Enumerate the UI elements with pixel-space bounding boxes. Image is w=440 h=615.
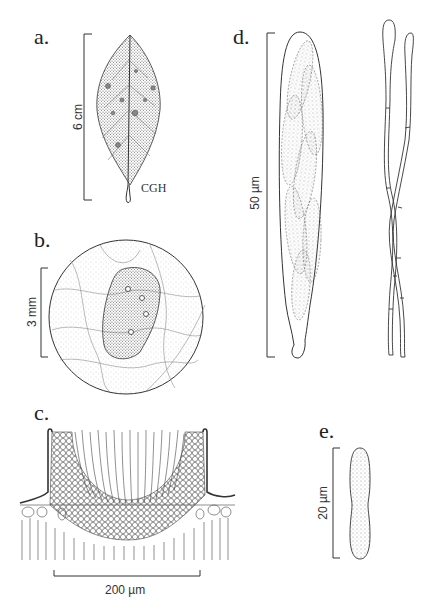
leaf-drawing — [84, 34, 160, 203]
illustration-canvas — [0, 0, 440, 615]
lesion-magnified-drawing — [41, 240, 205, 394]
scale-label-6cm: 6 cm — [71, 97, 85, 137]
panel-label-e: e. — [319, 418, 334, 444]
panel-label-c: c. — [34, 400, 49, 426]
artist-signature: CGH — [141, 181, 166, 196]
ascus-drawing — [267, 20, 413, 358]
scale-label-200um: 200 µm — [105, 583, 145, 597]
ascospore-drawing — [333, 448, 370, 559]
scale-label-50um: 50 µm — [248, 168, 262, 218]
panel-label-d: d. — [233, 24, 250, 50]
panel-label-a: a. — [34, 24, 49, 50]
scale-label-3mm: 3 mm — [25, 292, 39, 332]
scale-label-20um: 20 µm — [316, 478, 330, 528]
apothecium-section-drawing — [20, 429, 235, 576]
panel-label-b: b. — [34, 227, 51, 253]
